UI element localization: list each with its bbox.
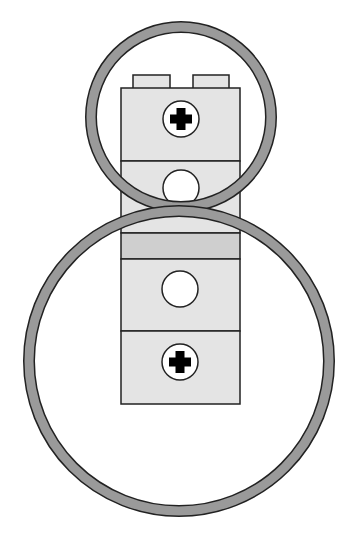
brick-stack bbox=[121, 75, 240, 404]
diagram-canvas bbox=[0, 0, 355, 533]
stud-left bbox=[133, 75, 170, 89]
round-hole-lower bbox=[162, 271, 198, 307]
stud-right bbox=[193, 75, 229, 89]
axle-hole-bottom bbox=[162, 344, 198, 380]
plate-band bbox=[121, 233, 240, 259]
axle-hole-top bbox=[163, 101, 199, 137]
